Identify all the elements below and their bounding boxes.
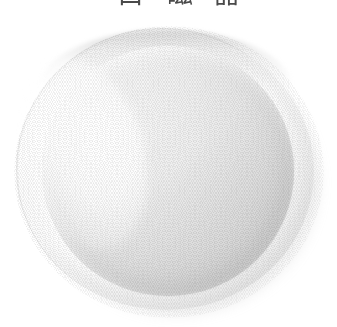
halftone-texture-overlay (14, 26, 324, 318)
caption-glyph-2: 磁 (166, 0, 193, 9)
plate-photo (14, 26, 324, 318)
caption-glyph-3: 器 (213, 0, 240, 9)
caption: 白 磁 器 (0, 0, 337, 9)
caption-glyph-1: 白 (117, 0, 144, 9)
scanned-catalog-page: 白 磁 器 (0, 0, 337, 327)
